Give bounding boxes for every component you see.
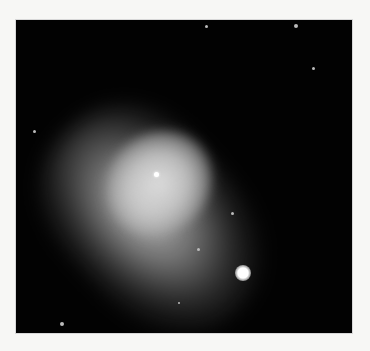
field-star <box>178 302 180 304</box>
field-star <box>60 322 64 326</box>
field-star <box>33 130 36 133</box>
field-star <box>205 25 208 28</box>
field-star <box>231 212 234 215</box>
field-star <box>312 67 315 70</box>
bright-field-star <box>235 265 251 281</box>
field-star <box>294 24 298 28</box>
central-star <box>154 172 159 177</box>
field-star <box>197 248 200 251</box>
nebula-image <box>15 19 353 334</box>
